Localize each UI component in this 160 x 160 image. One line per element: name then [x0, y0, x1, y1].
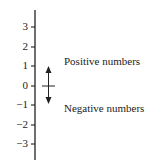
- tick-label-neg3: −3: [4, 138, 28, 149]
- negative-numbers-label: Negative numbers: [64, 102, 144, 114]
- number-line-diagram: 3 2 1 0 −1 −2 −3 Positive numbers Negati…: [0, 0, 160, 160]
- tick-label-1: 1: [4, 60, 28, 71]
- down-arrowhead-icon: [46, 97, 52, 104]
- tick-label-2: 2: [4, 41, 28, 52]
- tick-label-neg2: −2: [4, 119, 28, 130]
- tick-label-3: 3: [4, 21, 28, 32]
- direction-arrow-icon: [42, 66, 55, 104]
- up-arrowhead-icon: [46, 66, 52, 73]
- tick-label-neg1: −1: [4, 99, 28, 110]
- tick-label-0: 0: [4, 80, 28, 91]
- positive-numbers-label: Positive numbers: [64, 55, 140, 67]
